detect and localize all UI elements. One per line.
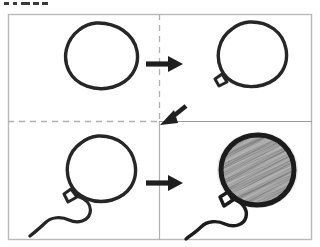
balloon-tutorial-figure: Balloon drawing step sequence Draw a cir… <box>0 0 320 247</box>
panel-grid <box>0 0 320 247</box>
